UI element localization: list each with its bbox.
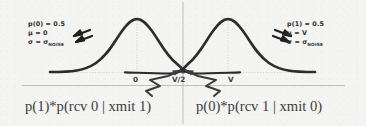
axis-tick-label-v: V [228, 75, 234, 84]
gaussian-decision-figure: p(0) = 0.5 μ = 0 σ = σNOISE p(1) = 0.5 μ… [0, 0, 366, 126]
axis-tick-label-v-half: V/2 [172, 75, 185, 84]
annotation-right-prior: p(1) = 0.5 [287, 20, 324, 29]
annotation-left-sigma-subscript: NOISE [48, 42, 64, 47]
annotation-right-sigma-prefix: σ = σ [287, 38, 307, 46]
annotation-left-mean: μ = 0 [28, 29, 65, 38]
gaussian-curve-xmit-0 [50, 19, 184, 72]
axis-tick-label-0: 0 [133, 75, 138, 84]
caption-right-error-term: p(0)*p(rcv 1 | xmit 0) [196, 98, 322, 115]
annotation-left-sigma: σ = σNOISE [28, 38, 65, 47]
grid-lines [50, 18, 318, 73]
annotation-right-mean: μ = V [287, 29, 324, 38]
annotation-left: p(0) = 0.5 μ = 0 σ = σNOISE [28, 20, 65, 48]
double-arrow-left-icon [74, 30, 92, 42]
caption-left-error-term: p(1)*p(rcv 0 | xmit 1) [25, 98, 151, 115]
annotation-left-prior: p(0) = 0.5 [28, 20, 65, 29]
annotation-right-sigma: σ = σNOISE [287, 38, 324, 47]
annotation-right-sigma-subscript: NOISE [307, 42, 323, 47]
annotation-right: p(1) = 0.5 μ = V σ = σNOISE [287, 20, 324, 48]
annotation-left-sigma-prefix: σ = σ [28, 38, 48, 46]
